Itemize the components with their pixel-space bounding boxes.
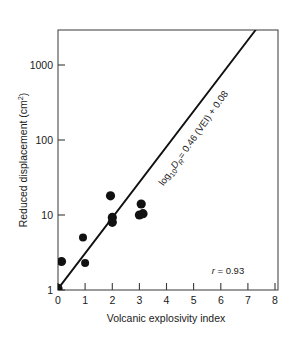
data-point bbox=[137, 199, 146, 208]
data-point bbox=[106, 191, 115, 200]
data-point bbox=[79, 234, 87, 242]
x-axis-title: Volcanic explosivity index bbox=[107, 312, 226, 324]
x-tick-label-8: 8 bbox=[272, 294, 278, 306]
data-point bbox=[57, 257, 66, 266]
y-tick-label-1000: 1000 bbox=[30, 59, 54, 71]
plot-frame bbox=[58, 30, 278, 290]
x-tick-label-0: 0 bbox=[55, 294, 61, 306]
y-tick-label-1: 1 bbox=[47, 284, 53, 296]
data-point bbox=[53, 284, 62, 293]
x-tick-label-2: 2 bbox=[109, 294, 115, 306]
svg-text:Reduced displacement (cm2): Reduced displacement (cm2) bbox=[16, 93, 29, 228]
x-tick-label-4: 4 bbox=[164, 294, 170, 306]
y-axis-title-tail: ) bbox=[17, 93, 29, 97]
x-tick-label-1: 1 bbox=[82, 294, 88, 306]
correlation-value: = 0.93 bbox=[217, 265, 244, 276]
data-point bbox=[81, 259, 89, 267]
y-tick-label-10: 10 bbox=[41, 209, 53, 221]
svg-text:r= 0.93: r= 0.93 bbox=[212, 265, 244, 276]
chart-figure: 1000 100 10 1 0 1 2 3 4 5 6 7 8 bbox=[0, 0, 295, 337]
y-axis-title: Reduced displacement (cm2) bbox=[16, 93, 29, 228]
data-point bbox=[138, 209, 147, 218]
x-tick-label-7: 7 bbox=[245, 294, 251, 306]
scatter-plot-svg: 1000 100 10 1 0 1 2 3 4 5 6 7 8 bbox=[0, 0, 295, 337]
x-tick-label-3: 3 bbox=[136, 294, 142, 306]
correlation-annotation: r= 0.93 bbox=[212, 265, 244, 276]
plot-border bbox=[58, 30, 278, 290]
x-tick-labels: 0 1 2 3 4 5 6 7 8 bbox=[55, 294, 278, 306]
data-point bbox=[108, 213, 117, 222]
y-tick-labels: 1000 100 10 1 bbox=[30, 59, 54, 296]
y-axis-title-main: Reduced displacement (cm bbox=[17, 100, 29, 227]
y-tick-label-100: 100 bbox=[35, 134, 53, 146]
x-tick-label-6: 6 bbox=[218, 294, 224, 306]
x-tick-label-5: 5 bbox=[191, 294, 197, 306]
